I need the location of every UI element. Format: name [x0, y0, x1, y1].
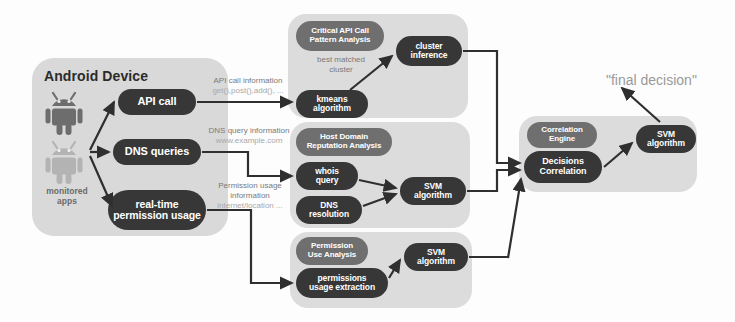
edge-label-permission-info-line1b: information — [198, 191, 302, 201]
node-permission-usage-label-line2: permission usage — [113, 210, 201, 221]
header-host-domain-reputation: Host Domain Reputation Analysis — [296, 128, 392, 156]
monitored-apps-caption: monitored apps — [36, 186, 98, 206]
edge-label-permission-info: Permission usage information internet/lo… — [198, 181, 302, 211]
wire-cluster-inference-to-decisions — [463, 51, 520, 163]
edge-label-permission-info-line1: Permission usage — [198, 181, 302, 191]
header-correlation-engine-line2: Engine — [549, 135, 575, 144]
node-permissions-usage-extraction[interactable]: permissions usage extraction — [296, 268, 388, 298]
node-svm-algorithm-domain-line2: algorithm — [414, 191, 452, 200]
node-permissions-usage-extraction-line2: usage extraction — [309, 283, 375, 292]
node-api-call[interactable]: API call — [118, 89, 196, 115]
node-dns-queries[interactable]: DNS queries — [113, 139, 201, 165]
node-svm-algorithm-final[interactable]: SVM algorithm — [636, 125, 696, 153]
node-kmeans-algorithm-line2: algorithm — [313, 104, 351, 113]
node-whois-query[interactable]: whois query — [296, 162, 358, 190]
android-robot-icon-primary — [44, 90, 88, 136]
header-permission-use-line2: Use Analysis — [308, 251, 356, 260]
node-kmeans-algorithm[interactable]: kmeans algorithm — [296, 90, 368, 118]
node-permission-usage[interactable]: real-time permission usage — [108, 190, 206, 230]
header-permission-use: Permission Use Analysis — [296, 237, 368, 265]
node-decisions-correlation-line2: Correlation — [540, 167, 587, 177]
edge-label-dns-info: DNS query information www.example.com — [190, 126, 308, 146]
android-robot-icon-secondary — [44, 139, 88, 185]
edge-label-api-info-line2: get(),post(),add(), ... — [192, 86, 304, 96]
edge-label-dns-info-line2: www.example.com — [190, 136, 308, 146]
final-decision-label: "final decision" — [606, 72, 697, 88]
diagram-canvas: Android Device — [0, 0, 735, 322]
edge-label-api-info-line1: API call information — [192, 76, 304, 86]
node-decisions-correlation[interactable]: Decisions Correlation — [524, 151, 602, 183]
header-critical-api-call-line2: Pattern Analysis — [310, 36, 371, 45]
node-cluster-inference-line2: inference — [411, 51, 448, 60]
header-critical-api-call: Critical API Call Pattern Analysis — [296, 21, 384, 51]
wire-svm-domain-to-decisions — [467, 170, 520, 191]
node-svm-algorithm-permission-line2: algorithm — [417, 257, 455, 266]
edge-label-api-info: API call information get(),post(),add(),… — [192, 76, 304, 96]
label-best-matched-cluster-line1: best matched — [297, 55, 385, 65]
label-best-matched-cluster-line2: cluster — [297, 65, 385, 75]
node-api-call-label: API call — [138, 96, 177, 108]
panel-title-android-device: Android Device — [44, 68, 148, 84]
node-svm-algorithm-domain[interactable]: SVM algorithm — [400, 177, 466, 205]
node-dns-resolution[interactable]: DNS resolution — [296, 196, 362, 224]
node-dns-queries-label: DNS queries — [125, 146, 189, 158]
monitored-apps-caption-line2: apps — [36, 196, 98, 206]
node-cluster-inference[interactable]: cluster inference — [396, 36, 462, 66]
header-correlation-engine: Correlation Engine — [527, 122, 597, 148]
edge-label-permission-info-line2: internet/location ... — [198, 201, 302, 211]
edge-label-dns-info-line1: DNS query information — [190, 126, 308, 136]
node-svm-algorithm-permission[interactable]: SVM algorithm — [404, 243, 468, 271]
label-best-matched-cluster: best matched cluster — [297, 55, 385, 75]
node-whois-query-line2: query — [316, 176, 339, 185]
node-svm-algorithm-final-line2: algorithm — [647, 139, 685, 148]
node-dns-resolution-line2: resolution — [309, 210, 349, 219]
monitored-apps-caption-line1: monitored — [36, 186, 98, 196]
header-host-domain-reputation-line2: Reputation Analysis — [307, 142, 382, 151]
wire-svm-permission-to-decisions — [469, 179, 521, 258]
